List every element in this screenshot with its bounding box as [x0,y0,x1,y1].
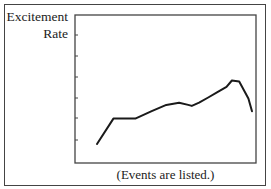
plot-area [0,0,271,189]
x-axis-label: (Events are listed.) [0,167,271,183]
plot-border [75,15,256,163]
